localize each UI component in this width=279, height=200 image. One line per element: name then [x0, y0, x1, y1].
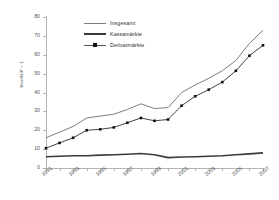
y-tick-label: 50	[26, 71, 40, 76]
y-tick-label: 80	[26, 14, 40, 19]
y-tick-label: 10	[26, 146, 40, 151]
data-point-marker	[194, 95, 197, 98]
data-point-marker	[221, 81, 224, 84]
legend-label: Kassamärkte	[110, 32, 142, 37]
data-point-marker	[45, 147, 48, 150]
y-tick-label: 70	[26, 33, 40, 38]
x-tick-mark	[249, 169, 250, 171]
data-point-marker	[207, 88, 210, 91]
x-tick-mark	[195, 169, 196, 171]
y-axis-title: Wert/BIP = 1	[19, 40, 24, 110]
data-point-marker	[167, 118, 170, 121]
y-tick-label: 0	[26, 165, 40, 170]
data-point-marker	[85, 129, 88, 132]
x-tick-mark	[141, 169, 142, 171]
y-tick-label: 60	[26, 52, 40, 57]
series-layer	[46, 17, 263, 168]
x-tick-mark	[87, 169, 88, 171]
x-tick-mark	[168, 169, 169, 171]
data-point-marker	[58, 142, 61, 145]
y-tick-label: 20	[26, 127, 40, 132]
x-tick-mark	[60, 169, 61, 171]
thick-line-swatch-icon	[84, 30, 106, 39]
legend-item-kassamaerkte: Kassamärkte	[84, 29, 144, 40]
series-line	[46, 45, 263, 148]
legend-item-derivatmaerkte: Derivatmärkte	[84, 40, 144, 51]
data-point-marker	[126, 121, 129, 124]
data-point-marker	[262, 44, 265, 47]
chart-legend: Insgesamt Kassamärkte Derivatmärkte	[84, 18, 144, 51]
legend-item-insgesamt: Insgesamt	[84, 18, 144, 29]
marker-line-swatch-icon	[84, 41, 106, 50]
data-point-marker	[99, 128, 102, 131]
y-tick-label: 30	[26, 108, 40, 113]
data-point-marker	[235, 69, 238, 72]
plot-area	[46, 17, 263, 168]
data-point-marker	[140, 117, 143, 120]
x-tick-mark	[222, 169, 223, 171]
data-point-marker	[248, 54, 251, 57]
series-line	[46, 153, 263, 158]
chart-figure: Wert/BIP = 1 01020304050607080 199119931…	[0, 0, 279, 200]
legend-label: Derivatmärkte	[110, 43, 144, 48]
line-swatch-icon	[84, 19, 106, 28]
data-point-marker	[113, 126, 116, 129]
y-tick-label: 40	[26, 90, 40, 95]
data-point-marker	[180, 104, 183, 107]
data-point-marker	[72, 137, 75, 140]
x-tick-mark	[114, 169, 115, 171]
legend-label: Insgesamt	[110, 21, 135, 26]
data-point-marker	[153, 120, 156, 123]
